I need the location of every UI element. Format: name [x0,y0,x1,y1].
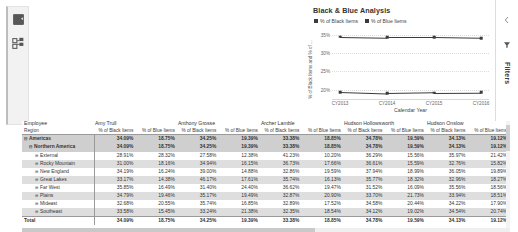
column-header-employee[interactable]: Amy Trull [95,121,178,128]
filters-pane-label: Filters [504,62,511,84]
column-header-employee[interactable]: Hudson Onslow [427,121,510,128]
column-header-measure[interactable]: % of Black Items [95,128,137,135]
table-cell-value: 15.45% [136,208,178,217]
table-row[interactable]: ⊞Southeast33.58%15.45%33.24%21.38%32.35%… [22,208,510,217]
report-page-icon[interactable] [12,12,25,25]
table-cell-value: 34.25% [178,217,220,226]
row-label-cell[interactable]: ⊟Northern America [22,143,95,151]
column-header-measure[interactable]: % of Black Items [427,128,469,135]
row-label-cell[interactable]: ⊟Americas [22,135,95,144]
table-cell-value: 17.52% [302,200,344,208]
row-label-cell[interactable]: Total [22,217,95,226]
row-header-region: Region [22,128,95,135]
column-header-measure[interactable]: % of Blue Items [136,128,178,135]
table-row[interactable]: ⊞Mideast32.68%20.55%35.74%16.85%32.89%17… [22,200,510,208]
legend-swatch-black [314,19,318,23]
table-cell-value: 35.74% [178,200,220,208]
table-cell-value: 33.38% [261,143,303,151]
filter-funnel-icon[interactable] [503,35,511,53]
table-cell-value: 21.42% [468,152,510,160]
table-row[interactable]: Total34.09%18.75%34.25%19.39%33.38%18.85… [22,217,510,226]
table-row[interactable]: ⊟Northern America34.09%18.75%34.25%19.39… [22,143,510,151]
matrix-table-visual[interactable]: Employee Amy TrullAnthony GrosseArcher L… [22,121,510,228]
data-point[interactable] [386,92,389,95]
table-cell-value: 18.85% [302,217,344,226]
table-cell-value: 28.32% [136,152,178,160]
table-cell-value: 18.75% [136,143,178,151]
table-cell-value: 14.38% [136,176,178,184]
row-label-cell[interactable]: ⊞New England [22,168,95,176]
row-label-cell[interactable]: ⊞Mideast [22,200,95,208]
filters-pane-collapsed[interactable]: Filters [495,0,518,131]
table-cell-value: 46.17% [178,176,220,184]
data-point[interactable] [480,91,483,94]
model-relationships-icon[interactable] [12,36,25,49]
row-label-cell[interactable]: ⊞Great Lakes [22,176,95,184]
table-cell-value: 34.25% [178,143,220,151]
row-label-cell[interactable]: ⊞Southeast [22,208,95,217]
horizontal-scrollbar[interactable] [22,228,510,232]
line-chart-visual[interactable]: Black & Blue Analysis % of Black Items %… [305,2,493,120]
table-cell-value: 18.85% [302,143,344,151]
vertical-scrollbar[interactable] [506,121,510,228]
table-cell-value: 34.13% [427,135,469,144]
legend-item-black[interactable]: % of Black Items [314,18,358,24]
table-cell-value: 37.94% [344,168,386,176]
column-header-employee[interactable]: Hudson Hollowsworth [344,121,427,128]
x-axis-tick: CY2013 [332,101,349,106]
table-cell-value: 27.58% [178,152,220,160]
legend-item-blue[interactable]: % of Blue Items [365,18,407,24]
x-axis-tick: CY2014 [379,101,396,106]
chevron-left-icon[interactable] [503,10,511,28]
row-label-cell[interactable]: ⊞External [22,152,95,160]
table-row[interactable]: ⊞New England34.19%16.24%39.00%14.88%32.8… [22,168,510,176]
table-row[interactable]: ⊞Great Lakes33.17%14.38%46.17%17.61%35.7… [22,176,510,184]
row-label-cell[interactable]: ⊞Plains [22,192,95,200]
column-header-measure[interactable]: % of Black Items [344,128,386,135]
table-cell-value: 15.56% [385,152,427,160]
row-label-cell[interactable]: ⊞Far West [22,184,95,192]
row-label-text: Far West [40,185,60,190]
data-point[interactable] [339,35,342,38]
table-row[interactable]: ⊞External28.91%28.32%27.58%12.38%41.23%1… [22,152,510,160]
table-cell-value: 15.59% [385,160,427,168]
table-row[interactable]: ⊞Rocky Mountain31.00%18.16%34.94%16.15%3… [22,160,510,168]
table-cell-value: 33.24% [178,208,220,217]
left-navigation-rail[interactable] [6,6,29,125]
table-cell-value: 15.82% [468,160,510,168]
vertical-scroll-thumb[interactable] [506,125,510,151]
table-cell-value: 36.61% [344,160,386,168]
gridline [332,35,489,36]
table-cell-value: 16.09% [385,184,427,192]
horizontal-scroll-thumb[interactable] [22,228,315,232]
table-cell-value: 31.40% [178,184,220,192]
data-point[interactable] [480,37,483,40]
row-label-text: External [40,153,58,158]
column-header-employee[interactable]: Archer Lamble [261,121,344,128]
table-row[interactable]: ⊞Plains34.79%19.46%35.17%19.49%32.87%20.… [22,192,510,200]
table-row[interactable]: ⊞Far West35.85%16.49%31.40%24.40%36.62%1… [22,184,510,192]
table-cell-value: 33.94% [427,192,469,200]
x-axis-tick: CY2016 [473,101,490,106]
column-header-measure[interactable]: % of Blue Items [302,128,344,135]
column-header-measure[interactable]: % of Black Items [261,128,303,135]
column-header-employee[interactable]: Anthony Grosse [178,121,261,128]
table-cell-value: 34.09% [95,135,137,144]
table-cell-value: 18.75% [136,217,178,226]
data-point[interactable] [386,36,389,39]
data-point[interactable] [433,91,436,94]
chart-plot-area: % of Black Items and % of ... 35%30%25%2… [305,27,493,113]
row-label-cell[interactable]: ⊞Rocky Mountain [22,160,95,168]
table-cell-value: 19.59% [385,135,427,144]
table-row[interactable]: ⊟Americas34.09%18.75%34.25%19.39%33.38%1… [22,135,510,144]
column-header-measure[interactable]: % of Black Items [178,128,220,135]
column-header-measure[interactable]: % of Blue Items [219,128,261,135]
column-header-measure[interactable]: % of Blue Items [385,128,427,135]
table-cell-value: 34.13% [427,217,469,226]
series-segment-1 [387,93,434,95]
column-header-measure[interactable]: % of Blue Items [468,128,510,135]
table-cell-value: 33.58% [95,208,137,217]
data-point[interactable] [433,36,436,39]
table-cell-value: 17.66% [302,160,344,168]
data-point[interactable] [339,91,342,94]
